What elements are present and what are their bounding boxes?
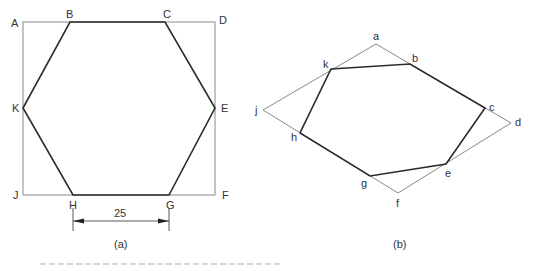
label-F: F [222, 189, 229, 201]
label-f: f [396, 197, 400, 209]
figure-canvas: A B C D E F G H J K 25 (a) a b c d e f g… [0, 0, 535, 266]
label-e: e [445, 167, 451, 179]
label-b: b [412, 52, 418, 64]
label-C: C [163, 8, 171, 20]
enclosing-square [23, 22, 215, 195]
caption-b: (b) [393, 238, 406, 250]
hexagon-a [23, 22, 215, 195]
label-B: B [66, 8, 73, 20]
label-g: g [361, 177, 367, 189]
caption-a: (a) [114, 238, 127, 250]
label-a: a [373, 30, 380, 42]
figure-b: a b c d e f g h j k (b) [254, 30, 521, 250]
label-A: A [11, 17, 19, 29]
label-d: d [515, 116, 521, 128]
arrowhead-right-icon [158, 219, 169, 224]
figure-a: A B C D E F G H J K 25 (a) [11, 8, 229, 250]
dimension-25: 25 [73, 207, 169, 231]
label-c: c [489, 101, 495, 113]
label-D: D [219, 14, 227, 26]
label-J: J [13, 189, 19, 201]
label-E: E [221, 102, 228, 114]
label-k: k [323, 58, 329, 70]
label-h: h [291, 131, 297, 143]
label-G: G [166, 199, 175, 211]
label-j: j [254, 104, 257, 116]
dimension-value: 25 [114, 207, 126, 219]
rhombus [263, 44, 511, 193]
figure-caption-clipped [40, 262, 280, 266]
arrowhead-left-icon [73, 219, 84, 224]
label-K: K [12, 102, 20, 114]
hexagon-b [300, 64, 485, 176]
